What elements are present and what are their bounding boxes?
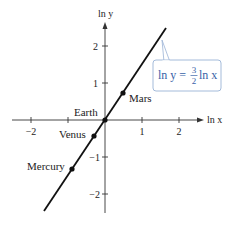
y-axis-label: ln y	[98, 8, 113, 19]
x-tick-1: 1	[140, 126, 145, 137]
label-venus: Venus	[59, 128, 86, 140]
label-earth: Earth	[74, 106, 98, 118]
x-axis-arrow-icon	[197, 118, 204, 123]
point-mars	[120, 90, 125, 95]
x-tick-neg2: −2	[26, 126, 37, 137]
equation-rhs: ln x	[199, 68, 217, 82]
y-tick-2: 2	[93, 41, 98, 52]
x-axis-label: ln x	[207, 114, 222, 125]
equation-denominator: 2	[192, 76, 197, 86]
chart: −2 1 2 2 1 −1 −2 ln x ln y Mercury Venus…	[0, 0, 234, 226]
equation-numerator: 3	[192, 65, 197, 75]
y-tick-1: 1	[93, 78, 98, 89]
x-tick-2: 2	[177, 126, 182, 137]
point-earth	[102, 117, 107, 122]
x-axis	[12, 117, 204, 123]
point-venus	[91, 133, 96, 138]
y-tick-neg2: −2	[89, 189, 100, 200]
point-mercury	[69, 166, 74, 171]
equation-callout: ln y = 3 2 ln x	[153, 40, 221, 91]
y-axis-arrow-icon	[103, 22, 108, 29]
label-mercury: Mercury	[27, 160, 65, 172]
y-tick-neg1: −1	[89, 152, 100, 163]
equation-lhs: ln y =	[158, 68, 186, 82]
label-mars: Mars	[129, 92, 152, 104]
